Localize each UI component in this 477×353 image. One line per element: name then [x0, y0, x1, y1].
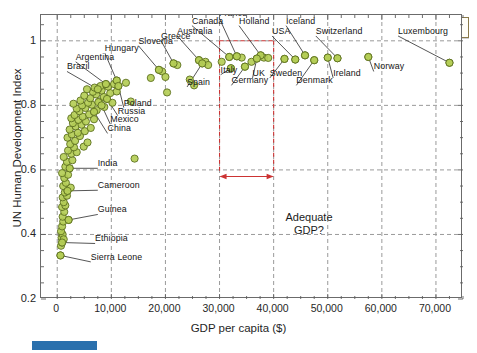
- x-tick-4: 40,000: [257, 302, 289, 314]
- plot-area: BrazilArgentinaHungarySloveniaGreeceAust…: [40, 14, 462, 298]
- x-tick-0: 0: [53, 302, 59, 314]
- slide-canvas: Human Development Index GDP per capita (…: [0, 0, 477, 353]
- x-tick-1: 10,000: [94, 302, 126, 314]
- x-axis-tick-labels: 010,00020,00030,00040,00050,00060,00070,…: [0, 302, 477, 318]
- axis-ticks-layer: [41, 15, 463, 299]
- x-tick-5: 50,000: [311, 302, 343, 314]
- x-tick-6: 60,000: [365, 302, 397, 314]
- y-axis-tick-labels: 0.20.40.60.81: [0, 0, 36, 353]
- x-tick-3: 30,000: [202, 302, 234, 314]
- y-tick-1: 1: [3, 34, 36, 46]
- bottom-blue-bar: [32, 341, 97, 350]
- x-tick-2: 20,000: [148, 302, 180, 314]
- x-tick-7: 70,000: [419, 302, 451, 314]
- y-tick-0.8: 0.8: [3, 98, 36, 110]
- x-axis-title: GDP per capita ($): [0, 322, 477, 334]
- y-tick-0.4: 0.4: [3, 227, 36, 239]
- y-tick-0.6: 0.6: [3, 163, 36, 175]
